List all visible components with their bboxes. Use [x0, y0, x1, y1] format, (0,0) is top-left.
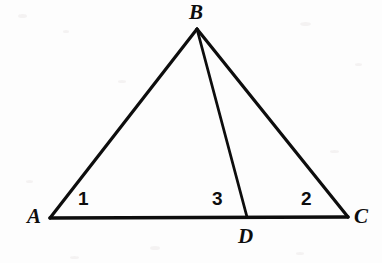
angle-label-3: 3	[212, 189, 223, 208]
vertex-label-C: C	[354, 206, 368, 227]
angle-label-2: 2	[301, 189, 312, 208]
segment-AC	[50, 217, 348, 218]
angle-label-1: 1	[78, 189, 89, 208]
triangle-diagram-canvas	[0, 0, 382, 263]
vertex-label-A: A	[27, 206, 41, 227]
segment-AB	[50, 29, 197, 218]
vertex-label-B: B	[189, 2, 203, 23]
geometry-figure: A B C D 1 3 2	[0, 0, 382, 263]
vertex-label-D: D	[238, 226, 253, 247]
